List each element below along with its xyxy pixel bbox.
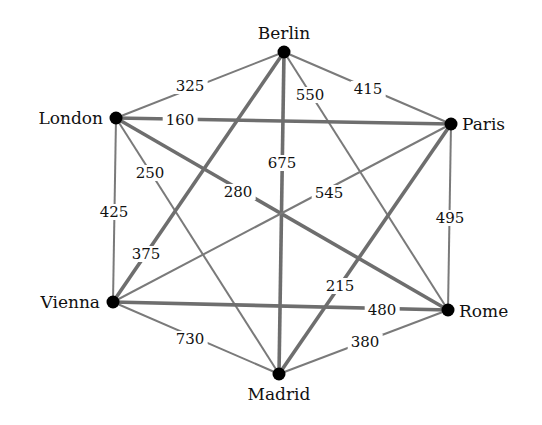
city-label-berlin: Berlin	[258, 24, 311, 42]
edge-weight-label: 675	[265, 155, 300, 171]
node-vienna	[107, 296, 120, 309]
edge-weight-label: 160	[163, 112, 198, 128]
edge-weight-label: 215	[323, 278, 358, 294]
edge-weight-label: 480	[365, 302, 400, 318]
edge-weight-label: 495	[433, 210, 468, 226]
node-london	[110, 112, 123, 125]
edge-weight-label: 380	[348, 334, 383, 350]
city-label-london: London	[38, 109, 103, 127]
node-berlin	[278, 46, 291, 59]
node-madrid	[273, 368, 286, 381]
city-graph-diagram: 3254155501602502806755454254953752154807…	[0, 0, 542, 425]
edge-weight-label: 280	[221, 184, 256, 200]
edge-weight-label: 545	[312, 185, 347, 201]
city-label-vienna: Vienna	[40, 293, 100, 311]
node-rome	[442, 304, 455, 317]
edge-weight-label: 375	[129, 246, 164, 262]
edge-weight-label: 550	[293, 87, 328, 103]
edge-weight-label: 250	[133, 165, 168, 181]
edge-weight-label: 415	[351, 81, 386, 97]
city-label-rome: Rome	[459, 302, 508, 320]
city-label-paris: Paris	[462, 115, 505, 133]
city-label-madrid: Madrid	[248, 385, 311, 403]
edge-weight-label: 325	[173, 78, 208, 94]
edge-weight-label: 425	[97, 204, 132, 220]
node-paris	[445, 118, 458, 131]
edge-weight-label: 730	[173, 331, 208, 347]
